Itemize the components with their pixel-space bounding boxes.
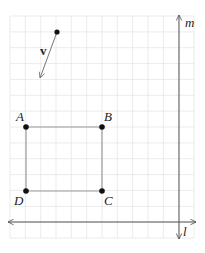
point-b-label: B: [104, 109, 112, 124]
point-b: [99, 124, 105, 130]
axis-l-label: l: [183, 224, 187, 239]
point-d-label: D: [13, 193, 24, 208]
point-a: [23, 124, 29, 130]
vector-v-label: v: [40, 43, 47, 58]
point-c-label: C: [104, 193, 113, 208]
axis-m-label: m: [185, 15, 194, 30]
point-a-label: A: [15, 109, 24, 124]
vector-v: v: [40, 29, 60, 78]
point-d: [23, 188, 29, 194]
vector-v-start-point: [54, 29, 59, 34]
coordinate-diagram: m l v ABCD: [0, 0, 205, 253]
